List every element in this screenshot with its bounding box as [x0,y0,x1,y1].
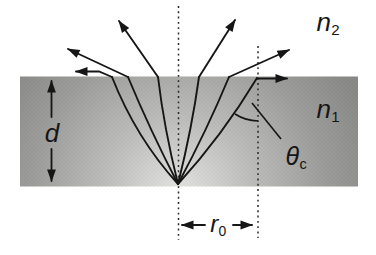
ray-left-steep-refracted-arrow [119,21,158,77]
ray-left-critical-surface-arrow [76,72,112,78]
label-r0-sub: 0 [218,223,226,239]
ray-right-steep-refracted-arrow [199,20,235,77]
ray-left-mid-refracted-arrow [68,49,128,77]
label-n1: n1 [317,96,340,122]
label-theta-c-sub: c [299,156,306,172]
label-n2-base: n [317,7,331,37]
label-n1-base: n [317,94,331,124]
label-r0-base: r [210,210,218,237]
ray-right-mid-refracted-arrow [229,50,289,77]
label-n2: n2 [317,9,340,35]
label-n1-sub: 1 [331,108,339,125]
label-theta-c: θc [286,144,307,169]
label-d-base: d [45,118,59,148]
label-d: d [45,120,59,146]
label-r0: r0 [210,212,226,236]
label-theta-c-base: θ [286,142,300,170]
label-n2-sub: 2 [331,21,339,38]
optics-critical-angle-figure: n2 n1 θc r0 d [0,0,376,255]
